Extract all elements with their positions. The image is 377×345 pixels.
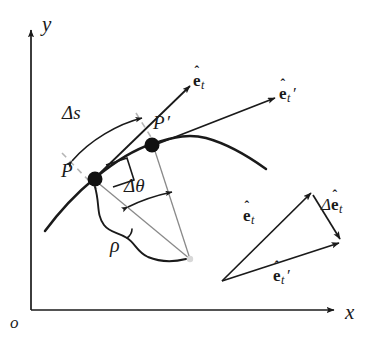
- hat-accent-icon: ˆ: [274, 260, 279, 274]
- hat-accent-icon: ˆ: [332, 189, 337, 203]
- hat-accent-icon: ˆ: [244, 200, 249, 214]
- rho-brace-group: [95, 187, 186, 261]
- subscript-t-5: t: [339, 202, 342, 216]
- triangle-rotated-unit-tangent-label: ˆe t′: [273, 267, 291, 286]
- prime-mark-4: ′: [287, 266, 291, 285]
- x-axis-label: x: [345, 302, 354, 323]
- point-marker-P: [88, 172, 103, 187]
- triangle-delta-unit-tangent-label: Δ ˆe t: [321, 196, 342, 215]
- hat-accent-icon: ˆ: [280, 78, 285, 92]
- delta-symbol-5: Δ: [321, 195, 331, 214]
- point-label-P-prime-mark: ′: [167, 112, 171, 133]
- hat-accent-icon: ˆ: [194, 65, 199, 79]
- point-marker-P-prime: [145, 138, 160, 153]
- diagram-vector-graphics: [0, 0, 377, 345]
- y-axis-label: y: [42, 14, 51, 35]
- unit-tangent-label-at-P: ˆe t: [193, 72, 204, 91]
- e-hat-glyph-4: ˆe: [273, 267, 281, 284]
- arc-length-label: Δs: [62, 103, 81, 122]
- subscript-t-1: t: [201, 78, 204, 92]
- point-label-P: P: [61, 161, 73, 180]
- point-label-P-text: P: [61, 160, 73, 181]
- e-hat-glyph-5: ˆe: [331, 196, 339, 213]
- e-hat-glyph-3: ˆe: [243, 207, 251, 224]
- triangle-et-vector: [222, 193, 311, 281]
- unit-tangent-label-at-P-prime: ˆe t′: [279, 85, 297, 104]
- rho-brace-middle-notch: [127, 229, 132, 238]
- subscript-t-4: t: [281, 273, 284, 287]
- triangle-unit-tangent-label: ˆe t: [243, 207, 254, 226]
- subscript-t-2: t: [287, 91, 290, 105]
- e-hat-glyph-2: ˆe: [279, 85, 287, 102]
- figure-canvas: y x o P P′ Δs Δθ ρ ˆe t ˆe t′ ˆe t ˆe t′…: [0, 0, 377, 345]
- origin-label: o: [10, 314, 19, 331]
- delta-s-double-arrow: [72, 118, 142, 161]
- point-label-P-prime-text: P: [153, 112, 165, 133]
- point-label-P-prime: P′: [153, 113, 171, 132]
- subscript-t-3: t: [251, 213, 254, 227]
- prime-mark-2: ′: [293, 84, 297, 103]
- arc-length-delta-s-indicator: [72, 118, 142, 161]
- e-hat-glyph-1: ˆe: [193, 72, 201, 89]
- centre-of-curvature-point: [187, 256, 193, 262]
- radius-of-curvature-label: ρ: [110, 235, 120, 255]
- radius-line-from-P-prime: [154, 148, 190, 259]
- delta-theta-label: Δθ: [124, 176, 144, 195]
- rho-curly-brace: [95, 187, 186, 261]
